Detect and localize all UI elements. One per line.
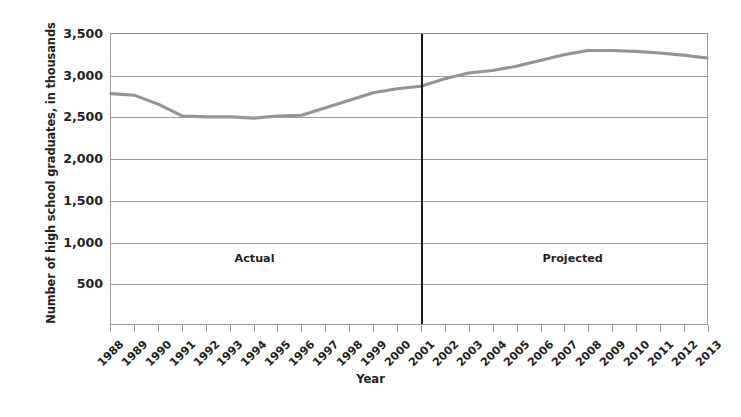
- x-tick-1997: [325, 325, 326, 332]
- x-tick-2003: [469, 325, 470, 332]
- data-series-line: [111, 34, 707, 324]
- x-tick-label-2008: 2008: [573, 338, 604, 369]
- x-tick-label-1993: 1993: [215, 338, 246, 369]
- y-tick-label-3000: 3,000: [40, 67, 103, 82]
- x-tick-2013: [708, 325, 709, 332]
- x-tick-label-2003: 2003: [454, 338, 485, 369]
- y-tick-label-2500: 2,500: [40, 109, 103, 124]
- actual-region-label: Actual: [235, 252, 275, 265]
- gridline-1000: [111, 243, 707, 244]
- chart-figure: Number of high school graduates, in thou…: [0, 0, 741, 417]
- gridline-3000: [111, 76, 707, 77]
- x-tick-1988: [110, 325, 111, 332]
- x-tick-2009: [612, 325, 613, 332]
- x-tick-label-1997: 1997: [310, 338, 341, 369]
- x-tick-label-2010: 2010: [621, 338, 652, 369]
- x-tick-1992: [206, 325, 207, 332]
- actual-projected-divider: [421, 34, 423, 324]
- x-tick-1993: [230, 325, 231, 332]
- x-tick-2008: [588, 325, 589, 332]
- x-tick-2010: [636, 325, 637, 332]
- x-tick-2012: [684, 325, 685, 332]
- x-tick-1990: [158, 325, 159, 332]
- x-tick-1991: [182, 325, 183, 332]
- plot-area: ActualProjected: [110, 33, 708, 325]
- x-tick-label-2002: 2002: [430, 338, 461, 369]
- x-tick-label-2007: 2007: [549, 338, 580, 369]
- x-tick-2011: [660, 325, 661, 332]
- gridline-2000: [111, 159, 707, 160]
- x-tick-1995: [277, 325, 278, 332]
- gridline-1500: [111, 201, 707, 202]
- x-tick-2006: [541, 325, 542, 332]
- gridline-2500: [111, 117, 707, 118]
- x-tick-label-1994: 1994: [238, 338, 269, 369]
- x-tick-1989: [134, 325, 135, 332]
- x-tick-label-1998: 1998: [334, 338, 365, 369]
- x-tick-2004: [493, 325, 494, 332]
- x-tick-2000: [397, 325, 398, 332]
- x-axis-ticks: [110, 325, 708, 334]
- x-tick-label-1989: 1989: [119, 338, 150, 369]
- projected-region-label: Projected: [542, 252, 602, 265]
- x-tick-label-1990: 1990: [143, 338, 174, 369]
- x-tick-label-2000: 2000: [382, 338, 413, 369]
- graduates-line: [111, 51, 707, 119]
- x-tick-label-2009: 2009: [597, 338, 628, 369]
- x-tick-1996: [301, 325, 302, 332]
- gridline-500: [111, 284, 707, 285]
- x-tick-label-1991: 1991: [167, 338, 198, 369]
- x-tick-2005: [517, 325, 518, 332]
- x-tick-2007: [564, 325, 565, 332]
- x-tick-label-2001: 2001: [406, 338, 437, 369]
- x-tick-label-1995: 1995: [262, 338, 293, 369]
- x-tick-label-2011: 2011: [645, 338, 676, 369]
- x-tick-label-2012: 2012: [669, 338, 700, 369]
- x-tick-label-1992: 1992: [191, 338, 222, 369]
- y-tick-label-1500: 1,500: [40, 192, 103, 207]
- x-tick-1994: [254, 325, 255, 332]
- x-tick-label-1999: 1999: [358, 338, 389, 369]
- x-axis-title: Year: [0, 372, 741, 386]
- x-tick-label-2013: 2013: [693, 338, 724, 369]
- y-tick-label-500: 500: [40, 276, 103, 291]
- x-tick-label-1996: 1996: [286, 338, 317, 369]
- x-tick-2001: [421, 325, 422, 332]
- y-axis-tick-labels: 5001,0001,5002,0002,5003,0003,500: [40, 0, 103, 417]
- y-tick-label-1000: 1,000: [40, 234, 103, 249]
- x-axis-tick-labels: 1988198919901991199219931994199519961997…: [110, 336, 708, 396]
- x-tick-label-2006: 2006: [526, 338, 557, 369]
- x-tick-label-2005: 2005: [502, 338, 533, 369]
- x-tick-label-2004: 2004: [478, 338, 509, 369]
- x-tick-1998: [349, 325, 350, 332]
- y-tick-label-2000: 2,000: [40, 151, 103, 166]
- x-tick-2002: [445, 325, 446, 332]
- x-tick-1999: [373, 325, 374, 332]
- y-tick-label-3500: 3,500: [40, 26, 103, 41]
